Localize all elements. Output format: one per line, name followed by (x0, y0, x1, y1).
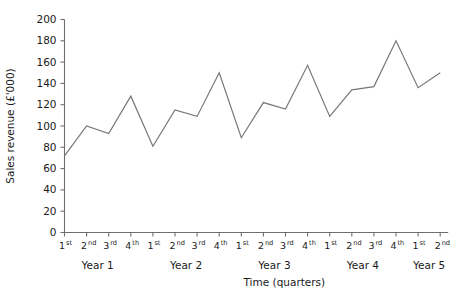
y-axis: 020406080100120140160180200 (36, 13, 64, 238)
y-axis-tick-label: 20 (43, 205, 56, 217)
x-axis-tick-ordinal-suffix: st (331, 239, 337, 247)
x-axis-tick-number: 2 (169, 240, 175, 251)
x-axis-tick-ordinal-suffix: nd (177, 239, 185, 247)
x-axis-tick-number: 1 (147, 240, 153, 251)
x-axis-tick-ordinal-suffix: nd (88, 239, 96, 247)
x-axis-title-label: Time (quarters) (243, 276, 326, 288)
x-axis-tick-number: 4 (214, 240, 220, 251)
y-axis-tick-label: 40 (43, 183, 56, 195)
x-axis-tick-number: 1 (236, 240, 242, 251)
y-axis-tick-label: 100 (36, 120, 56, 132)
y-axis-tick-label: 160 (36, 56, 56, 68)
x-axis-tick-number: 1 (59, 240, 65, 251)
revenue-series (65, 41, 441, 156)
y-axis-tick-label: 80 (43, 141, 56, 153)
x-axis-tick-number: 3 (280, 240, 286, 251)
y-axis-tick-label: 0 (50, 226, 57, 238)
x-axis-tick-ordinal-suffix: th (132, 239, 139, 247)
x-axis: 1st2nd3rd4th1st2nd3rd4th1st2nd3rd4th1st2… (59, 233, 450, 251)
x-axis-tick-number: 1 (324, 240, 330, 251)
x-axis-tick-ordinal-suffix: nd (353, 239, 361, 247)
y-axis-tick-label: 140 (36, 77, 56, 89)
x-axis-tick-number: 2 (346, 240, 352, 251)
year-group-label: Year 5 (412, 259, 445, 271)
year-group-label: Year 4 (346, 259, 380, 271)
x-axis-tick-ordinal-suffix: st (420, 239, 426, 247)
year-group-label: Year 2 (169, 259, 202, 271)
sales-revenue-line-chart: Sales revenue (£'000) 020406080100120140… (0, 0, 463, 293)
x-axis-tick-ordinal-suffix: rd (287, 239, 294, 247)
x-axis-tick-ordinal-suffix: st (243, 239, 249, 247)
x-axis-tick-number: 2 (435, 240, 441, 251)
x-axis-tick-number: 4 (125, 240, 131, 251)
x-axis-title: Time (quarters) (243, 276, 326, 288)
x-axis-tick-ordinal-suffix: st (154, 239, 160, 247)
y-axis-tick-label: 180 (36, 34, 56, 46)
x-axis-tick-ordinal-suffix: nd (265, 239, 273, 247)
x-axis-tick-ordinal-suffix: nd (442, 239, 450, 247)
y-axis-tick-label: 120 (36, 98, 56, 110)
x-axis-tick-number: 3 (103, 240, 109, 251)
chart-plot-area: Sales revenue (£'000) 020406080100120140… (0, 0, 463, 293)
x-axis-tick-ordinal-suffix: th (221, 239, 228, 247)
year-group-labels: Year 1Year 2Year 3Year 4Year 5 (81, 259, 446, 271)
x-axis-tick-ordinal-suffix: th (309, 239, 316, 247)
y-axis-tick-label: 200 (36, 13, 56, 25)
x-axis-tick-ordinal-suffix: th (398, 239, 405, 247)
x-axis-tick-ordinal-suffix: rd (110, 239, 117, 247)
revenue-line (65, 41, 441, 156)
x-axis-tick-number: 4 (390, 240, 396, 251)
x-axis-tick-ordinal-suffix: rd (375, 239, 382, 247)
y-axis-title: Sales revenue (£'000) (4, 68, 16, 183)
y-axis-tick-label: 60 (43, 162, 56, 174)
year-group-label: Year 1 (81, 259, 114, 271)
y-axis-title-label: Sales revenue (£'000) (4, 68, 16, 183)
x-axis-tick-ordinal-suffix: rd (199, 239, 206, 247)
x-axis-tick-number: 2 (258, 240, 264, 251)
x-axis-tick-number: 2 (81, 240, 87, 251)
x-axis-tick-ordinal-suffix: st (66, 239, 72, 247)
x-axis-tick-number: 3 (368, 240, 374, 251)
x-axis-tick-number: 4 (302, 240, 308, 251)
x-axis-tick-number: 1 (413, 240, 419, 251)
year-group-label: Year 3 (257, 259, 290, 271)
x-axis-tick-number: 3 (192, 240, 198, 251)
